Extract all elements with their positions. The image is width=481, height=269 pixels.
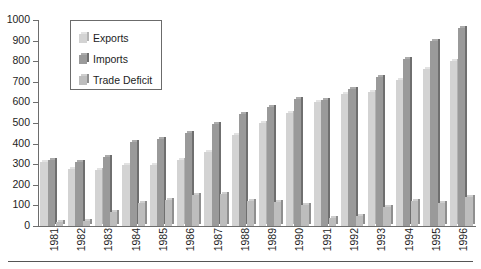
bar-face [177,160,184,226]
bar-face [75,162,82,226]
x-tick-label-1992: 1992 [348,228,360,251]
bar-side-face [356,87,358,224]
y-tick-mark [33,61,38,62]
bar-face [110,212,117,226]
bar-group [177,20,199,226]
x-tick-label-1989: 1989 [266,228,278,251]
bar-side-face [145,201,147,224]
bar-exports-1983 [95,170,102,226]
bar-group [314,20,336,226]
bar-exports-1982 [68,169,75,226]
y-tick-mark [33,185,38,186]
bar-imports-1988 [239,114,246,226]
y-tick-mark [33,205,38,206]
bar-face [220,194,227,226]
bar-exports-1986 [177,160,184,226]
bar-face [150,165,157,226]
legend-swatch-face [79,55,87,64]
bar-deficit-1981 [56,222,63,226]
bar-exports-1987 [204,152,211,226]
bar-side-face [199,193,201,224]
x-tick-label-1983: 1983 [102,228,114,251]
bar-exports-1981 [40,162,47,226]
bar-imports-1990 [294,99,301,226]
bar-exports-1985 [150,165,157,226]
bar-face [267,107,274,226]
bar-face [368,92,375,226]
bar-deficit-1983 [110,212,117,226]
bar-deficit-1982 [83,221,90,226]
bar-exports-1995 [423,69,430,226]
bar-side-face [172,198,174,224]
x-axis-labels: 1981198219831984198519861987198819891990… [39,228,476,260]
chart-legend: ExportsImportsTrade Deficit [70,20,162,90]
bar-imports-1994 [403,59,410,226]
bar-face [356,216,363,226]
bar-face [130,142,137,226]
bar-imports-1991 [321,100,328,226]
bar-imports-1989 [267,107,274,226]
legend-swatch-face [79,34,87,43]
legend-item-deficit: Trade Deficit [79,73,152,87]
x-tick-label-1984: 1984 [130,228,142,251]
bar-side-face [473,195,475,224]
bar-face [204,152,211,226]
bar-imports-1984 [130,142,137,226]
bottom-divider [8,261,473,262]
bar-face [247,201,254,226]
legend-swatch-side3d [87,32,89,41]
bar-imports-1982 [75,162,82,226]
bar-group [368,20,390,226]
bar-deficit-1984 [138,203,145,226]
legend-item-imports: Imports [79,52,128,66]
y-tick-mark [33,123,38,124]
bar-face [329,218,336,226]
y-tick-label: 100 [12,198,30,211]
bar-face [95,170,102,226]
y-tick-label: 700 [12,75,30,88]
y-tick-mark [33,226,38,227]
bar-deficit-1994 [411,201,418,226]
bar-imports-1987 [212,124,219,226]
bar-face [212,124,219,226]
bar-group [40,20,62,226]
bar-imports-1992 [348,89,355,226]
bar-side-face [363,214,365,224]
y-tick-label: 800 [12,54,30,67]
bar-exports-1992 [341,94,348,226]
bar-face [450,61,457,226]
y-tick-label: 600 [12,95,30,108]
bar-face [138,203,145,226]
bar-side-face [391,205,393,224]
y-tick-mark [33,102,38,103]
x-tick-label-1982: 1982 [75,228,87,251]
bar-group [341,20,363,226]
x-tick-label-1995: 1995 [430,228,442,251]
legend-swatch-side3d [87,74,89,83]
bar-face [103,157,110,226]
bar-face [376,77,383,226]
bar-face [192,195,199,226]
legend-swatch-deficit-icon [79,76,87,85]
bar-face [430,41,437,226]
bar-deficit-1995 [438,203,445,226]
bar-face [83,221,90,226]
bar-side-face [445,201,447,224]
bar-group [204,20,226,226]
x-tick-label-1987: 1987 [212,228,224,251]
bar-face [259,123,266,226]
y-tick-label: 500 [12,116,30,129]
bar-group [396,20,418,226]
bar-deficit-1986 [192,195,199,226]
bar-imports-1996 [458,28,465,226]
bar-side-face [383,75,385,224]
y-axis-tick: 500 [0,123,38,124]
bar-group [286,20,308,226]
y-tick-label: 900 [12,34,30,47]
bar-exports-1988 [232,135,239,226]
bar-face [438,203,445,226]
legend-label-deficit: Trade Deficit [93,74,152,86]
bar-deficit-1989 [274,202,281,226]
bar-side-face [227,192,229,224]
bar-side-face [418,199,420,224]
